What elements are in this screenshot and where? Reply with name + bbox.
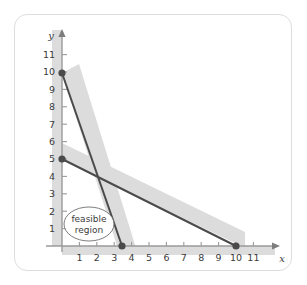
x-tick-label: 1 [76, 252, 82, 263]
x-axis-arrow-icon [272, 242, 280, 249]
vertex-point-0-5 [58, 155, 65, 162]
x-tick-label: 6 [163, 252, 169, 263]
x-tick-label: 5 [146, 252, 152, 263]
feasible-region-label-line1: feasible [71, 214, 107, 224]
x-tick-label: 11 [247, 252, 259, 263]
x-axis-label: x [279, 253, 285, 264]
feasible-region-ellipse [64, 207, 114, 241]
x-tick-label: 10 [230, 252, 242, 263]
x-tick-label: 8 [198, 252, 204, 263]
vertex-point-3point5-0 [118, 242, 125, 249]
vertex-point-0-10 [58, 69, 65, 76]
y-tick-label: 8 [49, 101, 55, 112]
x-tick-label: 7 [181, 252, 187, 263]
figure-root: 1 2 3 4 5 6 7 8 9 10 11 1 2 3 4 5 6 7 8 … [0, 0, 307, 285]
feasible-region-label-line2: region [75, 225, 103, 235]
x-tick-label: 4 [129, 252, 135, 263]
y-tick-label: 10 [43, 66, 55, 77]
y-tick-label: 4 [49, 171, 55, 182]
y-axis-tick-labels: 1 2 3 4 5 6 7 8 9 10 11 [43, 49, 55, 234]
feasible-region-callout: feasible region [64, 207, 114, 241]
vertex-point-10-0 [232, 242, 239, 249]
x-tick-label: 3 [111, 252, 117, 263]
plot-area: 1 2 3 4 5 6 7 8 9 10 11 1 2 3 4 5 6 7 8 … [0, 0, 307, 285]
y-tick-label: 11 [43, 49, 55, 60]
y-tick-label: 5 [49, 153, 55, 164]
y-tick-label: 3 [49, 188, 55, 199]
y-axis-label: y [47, 30, 54, 41]
y-tick-label: 6 [49, 136, 55, 147]
y-tick-label: 2 [49, 206, 55, 217]
y-tick-label: 9 [49, 84, 55, 95]
y-tick-label: 1 [49, 223, 55, 234]
y-tick-label: 7 [49, 119, 55, 130]
x-tick-label: 2 [94, 252, 100, 263]
x-tick-label: 9 [216, 252, 222, 263]
